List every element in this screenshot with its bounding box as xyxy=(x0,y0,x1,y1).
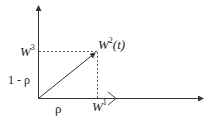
label-w1: W1 xyxy=(92,98,107,114)
vector-w2t-arrow xyxy=(39,53,95,98)
vector-diagram: W3 W2(t) 1 - ρ ρ W1 xyxy=(0,0,211,122)
label-w2t: W2(t) xyxy=(98,36,125,52)
label-one-minus-rho: 1 - ρ xyxy=(8,73,30,87)
label-rho: ρ xyxy=(55,101,62,116)
label-w3: W3 xyxy=(20,43,35,59)
